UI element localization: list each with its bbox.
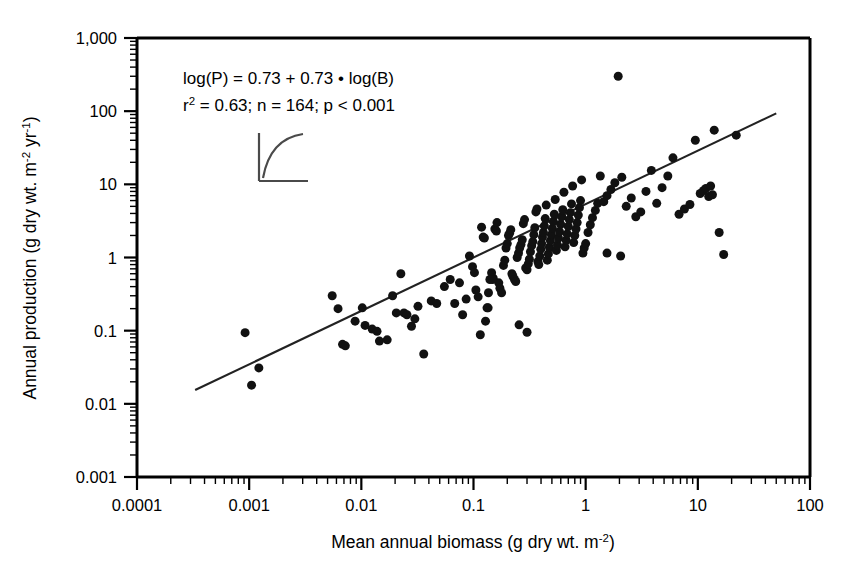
y-tick-label: 10: [99, 175, 117, 193]
data-point: [503, 239, 512, 248]
data-point: [566, 208, 575, 217]
data-point: [373, 327, 382, 336]
data-point: [500, 256, 509, 265]
data-point: [476, 330, 485, 339]
scatter-plot-figure: 0.0010.010.11101001,000 0.00010.0010.010…: [0, 0, 866, 582]
data-point: [375, 337, 384, 346]
data-point: [576, 196, 585, 205]
data-point: [450, 299, 459, 308]
data-point: [617, 173, 626, 182]
y-axis-title-exponent-2: -1: [20, 122, 32, 132]
data-point: [506, 225, 515, 234]
y-tick-label: 1,000: [76, 29, 117, 47]
data-point: [647, 166, 656, 175]
data-point: [410, 314, 419, 323]
data-point: [622, 202, 631, 211]
data-point: [383, 335, 392, 344]
data-point: [497, 288, 506, 297]
data-point: [573, 218, 582, 227]
data-point: [542, 201, 551, 210]
data-point: [732, 131, 741, 140]
data-point: [477, 223, 486, 232]
data-point: [484, 303, 493, 312]
x-axis-title-exponent: -2: [599, 532, 609, 544]
data-point: [523, 328, 532, 337]
data-point: [388, 291, 397, 300]
data-point: [458, 310, 467, 319]
y-tick-label: 0.01: [85, 395, 117, 413]
regression-stats-text: r2 = 0.63; n = 164; p < 0.001: [183, 95, 395, 115]
data-point: [708, 190, 717, 199]
data-point: [328, 291, 337, 300]
data-point: [515, 320, 524, 329]
figure-background: [0, 0, 866, 582]
data-point: [551, 195, 560, 204]
data-point: [247, 381, 256, 390]
data-point: [610, 178, 619, 187]
x-tick-label: 100: [796, 496, 824, 514]
data-point: [719, 250, 728, 259]
data-point: [658, 183, 667, 192]
data-point: [663, 172, 672, 181]
data-point: [492, 227, 501, 236]
x-tick-label: 0.0001: [112, 496, 162, 514]
x-tick-label: 10: [689, 496, 707, 514]
data-point: [706, 181, 715, 190]
y-axis-title-main: Annual production (g dry wt. m: [20, 162, 40, 399]
data-point: [474, 292, 483, 301]
data-point: [511, 277, 520, 286]
y-tick-label: 100: [89, 102, 117, 120]
y-tick-label: 1: [108, 249, 117, 267]
data-point: [484, 288, 493, 297]
data-point: [351, 317, 360, 326]
data-point: [636, 207, 645, 216]
y-axis-title-tail: ): [20, 116, 40, 122]
data-point: [627, 194, 636, 203]
plot-canvas: 0.0010.010.11101001,000 0.00010.0010.010…: [0, 0, 866, 582]
data-point: [584, 228, 593, 237]
data-point: [559, 188, 568, 197]
data-point: [518, 235, 527, 244]
data-point: [392, 308, 401, 317]
data-point: [616, 251, 625, 260]
data-point: [715, 228, 724, 237]
x-tick-label: 0.001: [229, 496, 270, 514]
data-point: [455, 278, 464, 287]
data-point: [567, 199, 576, 208]
data-point: [341, 341, 350, 350]
data-point: [710, 126, 719, 135]
data-point: [470, 268, 479, 277]
data-point: [603, 249, 612, 258]
data-point: [402, 310, 411, 319]
data-point: [577, 175, 586, 184]
data-point: [685, 200, 694, 209]
data-point: [413, 302, 422, 311]
data-point: [532, 205, 541, 214]
y-tick-label: 0.001: [76, 468, 117, 486]
data-point: [493, 218, 502, 227]
stats-rest: = 0.63; n = 164; p < 0.001: [195, 96, 395, 115]
data-point: [691, 136, 700, 145]
data-point: [254, 363, 263, 372]
data-point: [488, 275, 497, 284]
y-axis-title-exponent-1: -2: [20, 152, 32, 162]
data-point: [440, 282, 449, 291]
data-point: [465, 251, 474, 260]
data-point: [396, 269, 405, 278]
data-point: [581, 239, 590, 248]
data-point: [596, 172, 605, 181]
data-point: [481, 317, 490, 326]
x-tick-label: 0.1: [462, 496, 485, 514]
data-point: [668, 153, 677, 162]
data-point: [241, 328, 250, 337]
data-point: [480, 233, 489, 242]
x-tick-label: 0.01: [345, 496, 377, 514]
data-point: [534, 260, 543, 269]
x-axis-title-tail: ): [609, 532, 615, 552]
x-axis-title-main: Mean annual biomass (g dry wt. m: [331, 532, 598, 552]
x-axis-title: Mean annual biomass (g dry wt. m-2): [331, 532, 615, 552]
data-point: [419, 349, 428, 358]
regression-equation-text: log(P) = 0.73 + 0.73 • log(B): [183, 69, 394, 88]
data-point: [652, 199, 661, 208]
y-axis-title-mid: yr: [20, 132, 40, 152]
